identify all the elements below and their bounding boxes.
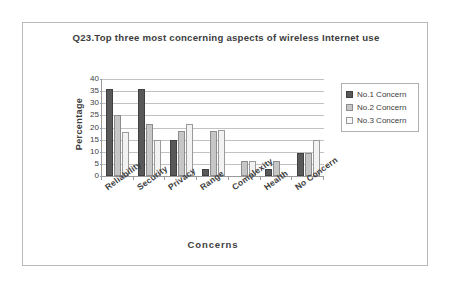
legend-item[interactable]: No.2 Concern [346, 101, 415, 114]
bar[interactable] [146, 124, 153, 176]
y-tick-label: 5 [79, 160, 99, 168]
bar[interactable] [297, 153, 304, 176]
chart-legend: No.1 ConcernNo.2 ConcernNo.3 Concern [341, 83, 419, 132]
bar-group [197, 79, 229, 176]
x-axis-category-labels: ReliabilitySecurityPrivacyRangeComplexit… [101, 180, 341, 240]
y-tick-label: 35 [79, 87, 99, 95]
bar[interactable] [178, 131, 185, 176]
y-tick-label: 25 [79, 111, 99, 119]
legend-item[interactable]: No.3 Concern [346, 114, 415, 127]
legend-label: No.2 Concern [357, 103, 406, 112]
x-axis-title: Concerns [123, 239, 303, 250]
bar[interactable] [210, 131, 217, 176]
bar[interactable] [202, 169, 209, 176]
chart-frame: Q23.Top three most concerning aspects of… [22, 22, 428, 266]
y-tick-label: 10 [79, 148, 99, 156]
legend-swatch-icon [346, 91, 353, 98]
legend-swatch-icon [346, 104, 353, 111]
bar-group [292, 79, 324, 176]
bar-group [165, 79, 197, 176]
legend-label: No.1 Concern [357, 90, 406, 99]
legend-swatch-icon [346, 117, 353, 124]
legend-item[interactable]: No.1 Concern [346, 88, 415, 101]
y-tick-label: 0 [79, 172, 99, 180]
y-tick-label: 15 [79, 136, 99, 144]
bar[interactable] [106, 89, 113, 176]
chart-title: Q23.Top three most concerning aspects of… [41, 31, 411, 45]
bar[interactable] [114, 115, 121, 176]
y-tick-label: 40 [79, 75, 99, 83]
bar-group [229, 79, 261, 176]
y-tick-label: 20 [79, 124, 99, 132]
legend-label: No.3 Concern [357, 116, 406, 125]
y-axis-tick-labels: 0510152025303540 [79, 79, 99, 176]
bar-group [102, 79, 134, 176]
y-tick-label: 30 [79, 99, 99, 107]
bar[interactable] [170, 140, 177, 176]
